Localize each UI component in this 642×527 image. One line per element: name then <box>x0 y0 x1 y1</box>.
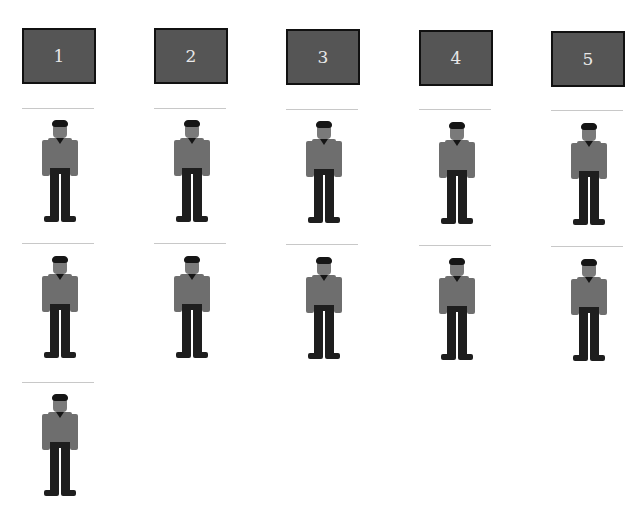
group-number: 2 <box>186 46 197 66</box>
group-number: 4 <box>451 48 462 68</box>
person-icon <box>40 254 80 360</box>
divider <box>154 108 226 109</box>
person-icon <box>172 254 212 360</box>
divider <box>22 243 94 244</box>
person-icon <box>304 255 344 361</box>
divider <box>154 243 226 244</box>
group-box-5: 5 <box>551 31 625 87</box>
divider <box>551 246 623 247</box>
divider <box>419 109 491 110</box>
person-icon <box>437 256 477 362</box>
person-icon <box>304 119 344 225</box>
divider <box>22 382 94 383</box>
divider <box>22 108 94 109</box>
person-icon <box>437 120 477 226</box>
divider <box>551 110 623 111</box>
divider <box>286 109 358 110</box>
group-number: 1 <box>54 46 65 66</box>
person-icon <box>40 118 80 224</box>
person-icon <box>569 121 609 227</box>
person-icon <box>172 118 212 224</box>
divider <box>419 245 491 246</box>
group-box-4: 4 <box>419 30 493 86</box>
group-box-3: 3 <box>286 29 360 85</box>
person-icon <box>569 257 609 363</box>
person-icon <box>40 392 80 498</box>
divider <box>286 244 358 245</box>
group-box-2: 2 <box>154 28 228 84</box>
group-number: 3 <box>318 47 329 67</box>
group-number: 5 <box>583 49 594 69</box>
group-box-1: 1 <box>22 28 96 84</box>
